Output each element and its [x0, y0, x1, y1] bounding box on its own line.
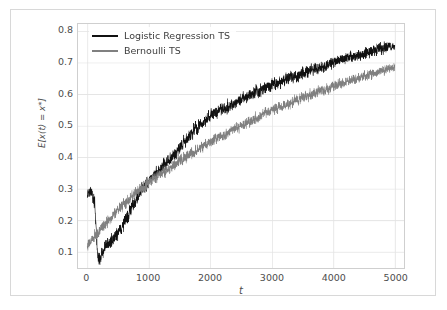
- legend-item: Bernoulli TS: [92, 45, 230, 57]
- y-axis-title: E[x(t) = x*]: [37, 68, 47, 178]
- x-tick-label: 0: [83, 273, 89, 283]
- x-tick-label: 2000: [198, 273, 222, 283]
- y-tick-label: 0.8: [43, 25, 73, 35]
- chart-legend: Logistic Regression TSBernoulli TS: [89, 27, 236, 60]
- x-axis-title: t: [77, 285, 405, 296]
- y-tick-label: 0.1: [43, 248, 73, 258]
- x-tick-label: 3000: [260, 273, 284, 283]
- x-tick-label: 4000: [322, 273, 346, 283]
- x-tick-label: 5000: [384, 273, 408, 283]
- figure-canvas: 0.10.20.30.40.50.60.70.8 E[x(t) = x*] Lo…: [10, 9, 436, 296]
- legend-label: Logistic Regression TS: [124, 31, 230, 41]
- y-tick-label: 0.4: [43, 152, 73, 162]
- x-tick-label: 1000: [136, 273, 160, 283]
- legend-label: Bernoulli TS: [124, 46, 181, 56]
- y-tick-label: 0.7: [43, 57, 73, 67]
- legend-line-icon: [92, 50, 118, 52]
- series-plot: [78, 24, 404, 268]
- legend-item: Logistic Regression TS: [92, 30, 230, 42]
- legend-line-icon: [92, 35, 118, 37]
- y-tick-label: 0.3: [43, 184, 73, 194]
- y-tick-label: 0.6: [43, 89, 73, 99]
- y-tick-label: 0.2: [43, 216, 73, 226]
- plot-area: Logistic Regression TSBernoulli TS: [77, 23, 405, 269]
- y-tick-label: 0.5: [43, 121, 73, 131]
